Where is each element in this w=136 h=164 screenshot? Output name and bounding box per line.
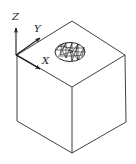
cube-diagram: Z Y X xyxy=(0,0,136,164)
cube-left-face xyxy=(17,55,72,153)
y-axis xyxy=(16,38,40,55)
cube xyxy=(17,21,126,153)
mesh-ellipse xyxy=(55,43,85,62)
x-axis-label: X xyxy=(41,55,50,66)
z-axis-label: Z xyxy=(11,11,20,22)
cube-right-face xyxy=(72,55,126,153)
x-axis xyxy=(16,55,40,69)
diagram-canvas: Z Y X xyxy=(0,0,136,164)
y-axis-label: Y xyxy=(34,23,42,34)
